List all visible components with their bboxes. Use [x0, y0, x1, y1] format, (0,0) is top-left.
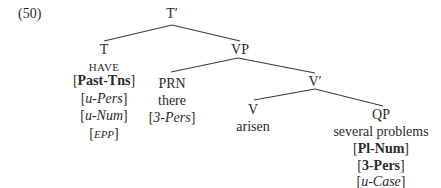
branch-tbar-to-t [104, 25, 172, 41]
node-v: V [248, 102, 258, 118]
node-qp-lexical: several problems [333, 124, 428, 140]
example-number: (50) [18, 6, 41, 22]
feature-prn-3-pers: [3-Pers] [149, 110, 196, 126]
branch-vbar-to-qp [315, 89, 383, 106]
feature-qp-3-pers: [3-Pers] [357, 158, 404, 174]
feature-u-pers: [u-Pers] [81, 91, 128, 107]
branch-vbar-to-v [254, 89, 315, 100]
feature-u-case: [u-Case] [356, 174, 405, 188]
node-prn: PRN [158, 76, 185, 92]
node-t-bar: T′ [166, 6, 178, 22]
node-qp: QP [372, 107, 390, 123]
node-v-bar: V′ [308, 74, 321, 90]
node-v-lexical: arisen [236, 119, 269, 135]
feature-u-num: [u-Num] [80, 108, 127, 124]
feature-past-tns: [Past-Tns] [73, 73, 135, 89]
node-vp: VP [231, 42, 249, 58]
branch-vp-to-vbar [238, 58, 315, 73]
feature-pl-num: [Pl-Num] [353, 141, 409, 157]
branch-tbar-to-vp [172, 25, 240, 41]
node-prn-lexical: there [158, 93, 186, 109]
feature-epp: [EPP] [89, 126, 119, 142]
branch-vp-to-prn [171, 58, 238, 72]
node-t: T [100, 42, 109, 58]
